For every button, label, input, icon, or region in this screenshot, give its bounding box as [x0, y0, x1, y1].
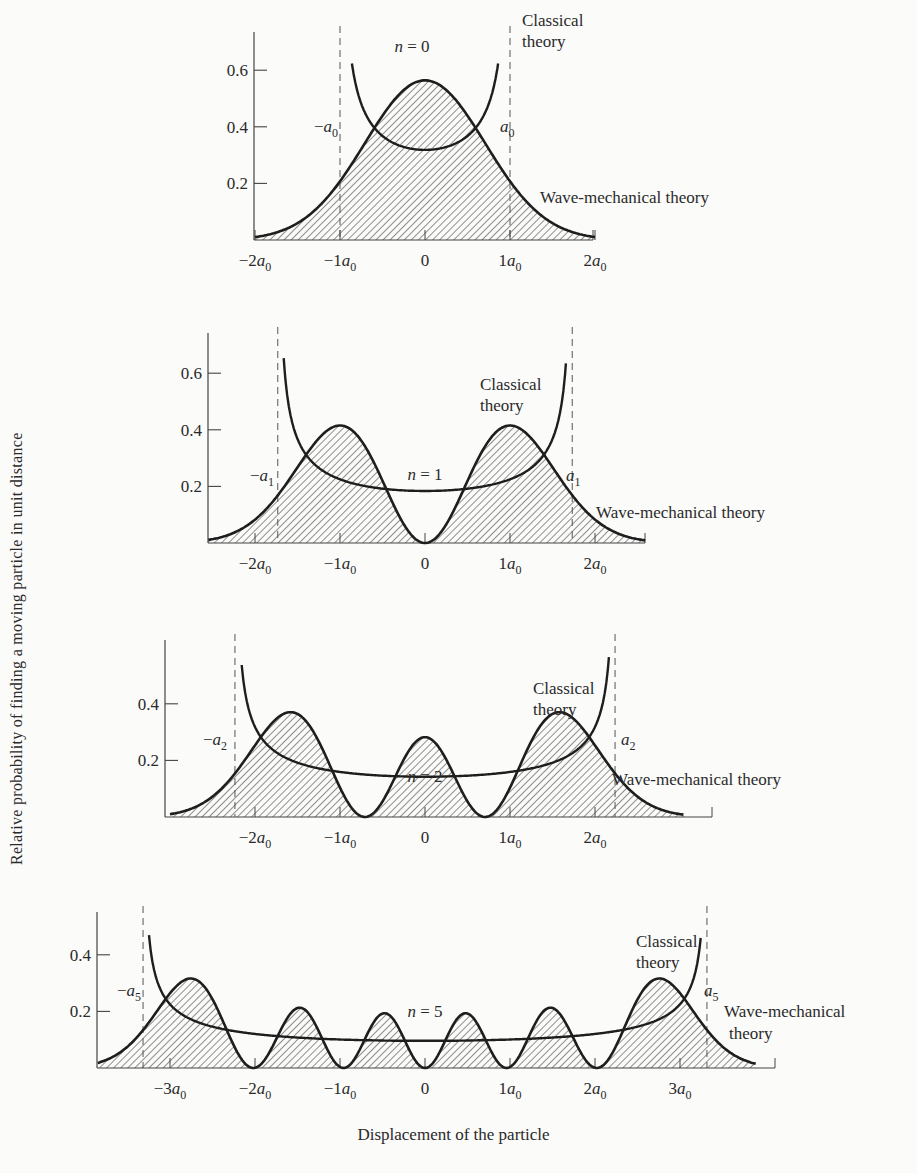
- left-turning-point-label: −a1: [250, 466, 274, 489]
- x-tick-label: 2a0: [584, 251, 607, 274]
- x-tick-label: 0: [421, 251, 430, 270]
- classical-theory-label-line2: theory: [636, 953, 680, 972]
- wave-mechanical-theory-label: Wave-mechanical: [724, 1002, 846, 1021]
- y-tick-label: 0.2: [138, 751, 159, 770]
- wave-mechanical-theory-label: Wave-mechanical theory: [612, 770, 782, 789]
- classical-curve: [149, 935, 701, 1041]
- quantum-number-label: n = 1: [407, 465, 442, 484]
- y-tick-label: 0.6: [181, 364, 202, 383]
- wave-mechanical-theory-label-line2: theory: [729, 1024, 773, 1043]
- quantum-number-label: n = 2: [407, 767, 442, 786]
- wave-area-hatch: [98, 979, 757, 1069]
- wave-mechanical-theory-label: Wave-mechanical theory: [540, 188, 710, 207]
- x-tick-label: −1a0: [324, 251, 357, 274]
- x-tick-label: 3a0: [669, 1079, 692, 1102]
- x-tick-label: −1a0: [324, 1079, 357, 1102]
- y-tick-label: 0.6: [227, 61, 248, 80]
- y-tick-label: 0.4: [138, 695, 160, 714]
- classical-theory-label-line2: theory: [522, 32, 566, 51]
- x-tick-label: −1a0: [324, 828, 357, 851]
- x-tick-label: 2a0: [584, 828, 607, 851]
- classical-theory-label-line2: theory: [533, 700, 577, 719]
- panel-n1: 0.20.40.6−2a0−1a001a02a0n = 1Classicalth…: [181, 327, 766, 577]
- x-tick-label: 0: [421, 828, 430, 847]
- y-tick-label: 0.4: [70, 946, 92, 965]
- x-tick-label: 0: [421, 554, 430, 573]
- x-tick-label: 2a0: [584, 1079, 607, 1102]
- x-tick-label: 1a0: [499, 554, 522, 577]
- wave-mechanical-theory-label: Wave-mechanical theory: [596, 503, 766, 522]
- y-tick-label: 0.2: [70, 1002, 91, 1021]
- quantum-number-label: n = 5: [407, 1002, 442, 1021]
- right-turning-point-label: a5: [704, 981, 719, 1004]
- left-turning-point-label: −a2: [203, 730, 227, 753]
- x-tick-label: −3a0: [154, 1079, 187, 1102]
- panel-n5: 0.20.4−3a0−2a0−1a001a02a03a0n = 5Classic…: [70, 906, 846, 1102]
- figure-canvas: 0.20.40.6−2a0−1a001a02a0n = 0Classicalth…: [0, 0, 917, 1173]
- x-tick-label: −2a0: [239, 251, 272, 274]
- y-axis-label: Relative probability of finding a moving…: [8, 432, 26, 865]
- x-tick-label: 0: [421, 1079, 430, 1098]
- y-tick-label: 0.2: [227, 174, 248, 193]
- x-tick-label: −2a0: [239, 1079, 272, 1102]
- right-turning-point-label: a2: [621, 730, 636, 753]
- panel-n0: 0.20.40.6−2a0−1a001a02a0n = 0Classicalth…: [227, 11, 710, 274]
- y-tick-label: 0.4: [181, 421, 203, 440]
- right-turning-point-label: a0: [500, 117, 515, 140]
- panel-n2: 0.20.4−2a0−1a001a02a0n = 2Classicaltheor…: [138, 634, 782, 851]
- right-turning-point-label: a1: [566, 466, 581, 489]
- x-axis-label-text: Displacement of the particle: [357, 1125, 549, 1144]
- y-tick-label: 0.4: [227, 118, 249, 137]
- classical-theory-label: Classical: [533, 679, 595, 698]
- quantum-number-label: n = 0: [394, 37, 429, 56]
- x-tick-label: 1a0: [499, 1079, 522, 1102]
- x-tick-label: −2a0: [239, 828, 272, 851]
- left-turning-point-label: −a0: [314, 117, 338, 140]
- x-tick-label: 1a0: [499, 251, 522, 274]
- left-turning-point-label: −a5: [117, 981, 141, 1004]
- x-tick-label: 1a0: [499, 828, 522, 851]
- x-tick-label: 2a0: [584, 554, 607, 577]
- x-axis-label: Displacement of the particle: [0, 1125, 917, 1145]
- x-tick-label: −2a0: [239, 554, 272, 577]
- classical-theory-label: Classical: [480, 375, 542, 394]
- classical-theory-label-line2: theory: [480, 396, 524, 415]
- classical-theory-label: Classical: [522, 11, 584, 30]
- x-tick-label: −1a0: [324, 554, 357, 577]
- classical-theory-label: Classical: [636, 932, 698, 951]
- y-tick-label: 0.2: [181, 477, 202, 496]
